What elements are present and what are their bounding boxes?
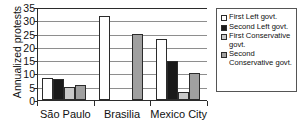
y-tick-label: 30	[12, 16, 35, 27]
y-tickmark	[34, 21, 38, 22]
bar	[42, 78, 53, 100]
x-tickmark	[150, 101, 151, 106]
y-tickmark	[34, 35, 38, 36]
x-axis-label: Brasilia	[104, 108, 140, 120]
y-tickmark	[34, 61, 38, 62]
x-tickmark	[207, 101, 208, 106]
legend-swatch-icon	[221, 34, 227, 40]
legend-item[interactable]: Second Conservative govt.	[221, 50, 293, 67]
y-tick-label: 25	[12, 29, 35, 40]
legend-item-label: First Left govt.	[229, 13, 277, 22]
y-tickmark	[34, 74, 38, 75]
x-axis-label: São Paulo	[40, 108, 91, 120]
y-tickmark	[34, 8, 38, 9]
legend-item[interactable]: First Conservative govt.	[221, 32, 293, 49]
x-tickmark	[94, 101, 95, 106]
y-tick-label: 20	[12, 43, 35, 54]
legend-swatch-icon	[221, 25, 227, 31]
y-tick-label: 0	[12, 96, 35, 107]
legend-item[interactable]: Second Left govt.	[221, 23, 293, 32]
bar	[132, 34, 143, 100]
legend-item-label: First Conservative govt.	[229, 32, 293, 49]
bar-group	[156, 8, 200, 100]
legend-swatch-icon	[221, 15, 227, 21]
bar	[53, 79, 64, 100]
bar	[167, 61, 178, 100]
bar	[75, 85, 86, 100]
legend-swatch-icon	[221, 52, 227, 58]
y-tick-label: 5	[12, 82, 35, 93]
bar	[64, 87, 75, 100]
bar	[99, 16, 110, 100]
legend-item-label: Second Conservative govt.	[229, 50, 293, 67]
y-tick-label: 35	[12, 3, 35, 14]
legend: First Left govt.Second Left govt.First C…	[216, 8, 297, 92]
y-tick-label: 15	[12, 56, 35, 67]
legend-item-label: Second Left govt.	[229, 23, 288, 32]
bar-group	[42, 8, 86, 100]
y-tickmark	[34, 88, 38, 89]
x-axis-label: Mexico City	[150, 108, 207, 120]
bar-chart: Annualized protests 05101520253035 First…	[0, 0, 301, 138]
y-tickmark	[34, 48, 38, 49]
bar-group	[99, 8, 143, 100]
x-tickmark	[37, 101, 38, 106]
bar	[156, 39, 167, 100]
y-tick-label: 10	[12, 69, 35, 80]
plot-area	[37, 8, 207, 101]
bar	[189, 73, 200, 100]
y-axis-tick-labels: 05101520253035	[12, 0, 35, 108]
bar	[178, 92, 189, 100]
legend-item[interactable]: First Left govt.	[221, 13, 293, 22]
